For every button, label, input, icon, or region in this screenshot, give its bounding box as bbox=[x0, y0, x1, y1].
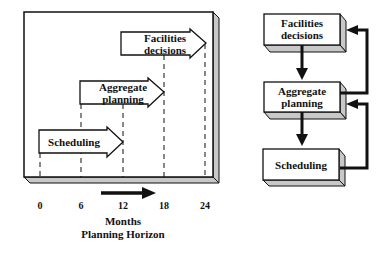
feedback-arrowhead-icon bbox=[346, 25, 358, 35]
box-facilities-line1: Facilities bbox=[264, 17, 340, 29]
box-facilities-line2: decisions bbox=[264, 29, 340, 41]
aggregate-label-line1: Aggregate bbox=[88, 81, 158, 93]
time-direction-arrow bbox=[101, 187, 156, 199]
box-scheduling-line1: Scheduling bbox=[263, 159, 339, 171]
scheduling-label-text: Scheduling bbox=[48, 136, 100, 148]
scheduling-label: Scheduling bbox=[42, 136, 106, 148]
tick-6: 6 bbox=[71, 200, 91, 211]
box-aggregate-planning: Aggregate planning bbox=[264, 85, 340, 109]
aggregate-planning-label: Aggregate planning bbox=[88, 81, 158, 105]
tick-24: 24 bbox=[195, 200, 215, 211]
tick-18: 18 bbox=[154, 200, 174, 211]
box-aggregate-line1: Aggregate bbox=[264, 85, 340, 97]
axis-title: Planning Horizon bbox=[70, 228, 176, 240]
tick-12: 12 bbox=[113, 200, 133, 211]
box-aggregate-line2: planning bbox=[264, 97, 340, 109]
aggregate-label-line2: planning bbox=[88, 93, 158, 105]
box-facilities-decisions: Facilities decisions bbox=[264, 17, 340, 41]
axis-unit-label: Months bbox=[80, 215, 166, 227]
tick-0: 0 bbox=[30, 200, 50, 211]
facilities-decisions-label: Facilities decisions bbox=[130, 32, 200, 56]
facilities-label-line2: decisions bbox=[130, 44, 200, 56]
box-scheduling: Scheduling bbox=[263, 159, 339, 171]
facilities-label-line1: Facilities bbox=[130, 32, 200, 44]
feedback-arrowhead-icon bbox=[346, 99, 358, 109]
